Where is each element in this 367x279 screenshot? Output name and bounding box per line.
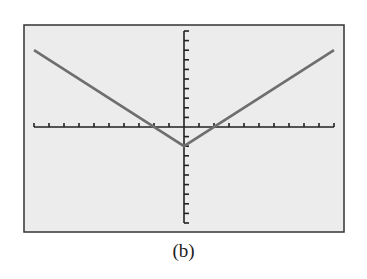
figure-caption: (b) bbox=[0, 240, 367, 262]
graphing-calculator-screen bbox=[0, 0, 367, 240]
